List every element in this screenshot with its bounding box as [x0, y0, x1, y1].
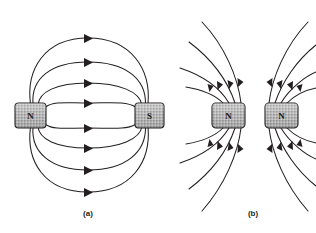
magnet-a-north-label: N [27, 111, 34, 121]
magnet-b-north-left-label: N [225, 111, 232, 121]
arrowhead-a-6 [84, 144, 93, 153]
arrowhead-a-5 [84, 124, 93, 133]
arrowhead-b-r-dn-4 [297, 139, 303, 147]
magnet-b-north-right: N [265, 103, 298, 128]
field-line-b-l-up-2 [189, 42, 235, 103]
arrowhead-a-1 [84, 34, 93, 43]
arrowhead-b-r-dn-3 [287, 141, 293, 150]
panel-b: N N (b) [180, 22, 316, 218]
panel-a-arrowheads [84, 34, 93, 197]
field-line-b-l-up-1 [202, 22, 241, 103]
figure-root: N S (a) [0, 0, 316, 233]
arrowhead-b-l-up-3 [217, 81, 223, 90]
arrowhead-a-8 [84, 188, 93, 197]
arrowhead-b-r-up-3 [287, 81, 293, 90]
field-line-b-l-dn-2 [189, 128, 235, 189]
arrowhead-b-r-dn-1 [267, 144, 273, 153]
magnetic-field-figure: N S (a) [0, 0, 316, 233]
field-line-b-r-up-2 [275, 45, 316, 103]
arrowhead-a-7 [84, 166, 93, 175]
arrowhead-a-3 [84, 79, 93, 88]
panel-b-caption: (b) [248, 209, 259, 218]
panel-a: N S (a) [15, 34, 164, 218]
field-line-b-r-up-1 [269, 22, 308, 103]
panel-a-caption: (a) [83, 209, 93, 218]
magnet-b-north-right-label: N [278, 111, 285, 121]
arrowhead-a-2 [84, 58, 93, 67]
arrowhead-a-4 [84, 99, 93, 108]
arrowhead-b-l-up-1 [238, 78, 244, 87]
arrowhead-b-r-up-4 [297, 84, 303, 92]
magnet-a-south: S [135, 103, 164, 128]
field-line-b-r-dn-1 [269, 128, 308, 211]
field-line-a-1 [30, 38, 148, 104]
magnet-a-south-label: S [147, 111, 152, 121]
arrowhead-b-r-up-1 [267, 78, 273, 87]
field-line-b-r-dn-2 [275, 128, 316, 186]
field-line-b-l-dn-1 [202, 128, 241, 211]
arrowhead-b-l-dn-3 [217, 141, 223, 150]
magnet-b-north-left: N [212, 103, 245, 128]
arrowhead-b-l-dn-1 [238, 144, 244, 153]
field-line-a-3 [38, 83, 142, 105]
magnet-a-north: N [15, 103, 46, 128]
